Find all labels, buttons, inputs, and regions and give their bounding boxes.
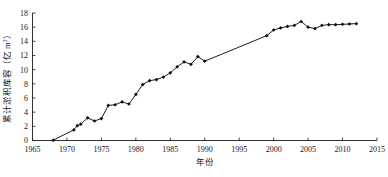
x-tick-label: 2010 [335,145,351,154]
x-tick-label: 1970 [59,145,75,154]
x-tick-label: 1995 [231,145,247,154]
y-tick-label: 4 [24,108,28,117]
y-tick-label: 14 [20,37,28,46]
svg-text:累计淤积库容（亿 m3）: 累计淤积库容（亿 m3） [2,30,12,123]
y-tick-label: 2 [24,122,28,131]
x-tick-label: 1975 [93,145,109,154]
y-tick-label: 6 [24,94,28,103]
line-chart-svg: 024681012141618 196519701975198019851990… [0,0,388,177]
y-tick-label: 16 [20,23,28,32]
y-axis-title: 累计淤积库容（亿 m3） [2,30,12,123]
chart-figure: 024681012141618 196519701975198019851990… [0,0,388,177]
x-tick-label: 2015 [369,145,385,154]
y-tick-label: 18 [20,9,28,18]
x-tick-label: 2005 [300,145,316,154]
x-tick-label: 1990 [197,145,213,154]
x-tick-label: 2000 [266,145,282,154]
y-tick-label: 12 [20,51,28,60]
y-tick-label: 10 [20,66,28,75]
x-axis-title: 年份 [196,157,214,167]
y-tick-label: 8 [24,80,28,89]
x-tick-label: 1980 [128,145,144,154]
x-tick-label: 1965 [25,145,41,154]
x-tick-label: 1985 [162,145,178,154]
